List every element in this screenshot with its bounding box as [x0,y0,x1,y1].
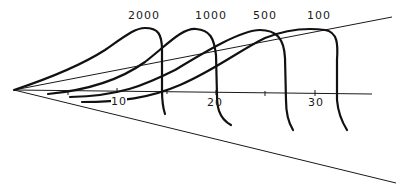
curve-label-2000: 2000 [128,10,160,21]
tick-label-30: 30 [308,97,324,108]
curve-label-500: 500 [253,10,277,21]
curve-500 [70,30,293,130]
curve-1000 [48,29,231,125]
tick-label-10: 10 [111,96,127,107]
curve-label-100: 100 [307,10,331,21]
lower-ray [14,90,396,183]
diagram-canvas [0,0,406,185]
tick-label-20: 20 [207,97,223,108]
curve-label-1000: 1000 [195,10,227,21]
